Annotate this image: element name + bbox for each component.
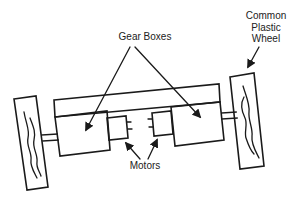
- left-gearbox: [55, 111, 110, 156]
- arrow-to-left-motor: [126, 143, 140, 159]
- arrow-to-right-wheel: [248, 47, 259, 67]
- common-plastic-wheel-label: Common Plastic Wheel: [240, 10, 292, 45]
- right-wheel: [230, 73, 264, 169]
- motors-label: Motors: [122, 160, 168, 171]
- left-wheel-tread: [24, 112, 37, 178]
- left-axle: [42, 134, 58, 141]
- right-wheel-tread: [242, 97, 254, 154]
- left-motor: [107, 116, 132, 140]
- gear-boxes-arrows: [86, 47, 200, 130]
- motors-arrows: [126, 140, 157, 159]
- wheel-arrow: [248, 47, 259, 67]
- wheel-label-line-3: Wheel: [240, 33, 292, 45]
- arrow-to-right-motor: [148, 140, 157, 159]
- wheel-label-line-1: Common: [240, 10, 292, 22]
- right-motor: [148, 111, 173, 136]
- left-wheel: [14, 96, 48, 190]
- gear-boxes-label: Gear Boxes: [108, 31, 182, 42]
- right-gearbox: [171, 102, 224, 146]
- wheel-label-line-2: Plastic: [240, 22, 292, 34]
